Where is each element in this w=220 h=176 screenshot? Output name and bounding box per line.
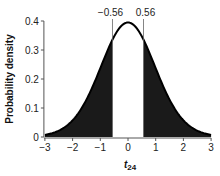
x-tick-label: 2 (181, 142, 187, 153)
y-tick-label: 0.4 (25, 16, 39, 27)
x-tick-label: −2 (67, 142, 79, 153)
left-tail-shaded-region (45, 40, 113, 137)
x-tick-label: 3 (208, 142, 214, 153)
y-tick-label: 0.3 (25, 45, 39, 56)
x-tick-label: 0 (125, 142, 131, 153)
x-axis: −3−2−10123 (39, 138, 214, 153)
y-tick-label: 0.1 (25, 103, 39, 114)
x-axis-title-subscript: 24 (127, 163, 136, 172)
y-tick-label: 0 (33, 132, 39, 143)
x-tick-label: −3 (39, 142, 51, 153)
density-curve (45, 23, 211, 135)
y-axis: 00.10.20.30.4 (25, 16, 44, 143)
x-axis-title: t24 (124, 159, 137, 172)
y-axis-title: Probability density (4, 34, 15, 124)
annotation-label-right: 0.56 (136, 7, 156, 18)
x-tick-label: 1 (153, 142, 159, 153)
right-tail-shaded-region (144, 40, 212, 137)
annotation-label-left: −0.56 (98, 7, 124, 18)
x-tick-label: −1 (95, 142, 107, 153)
y-tick-label: 0.2 (25, 74, 39, 85)
plot-area: −0.56 0.56 (45, 7, 211, 137)
t-distribution-chart: −0.56 0.56 00.10.20.30.4 −3−2−10123 Prob… (0, 0, 220, 176)
